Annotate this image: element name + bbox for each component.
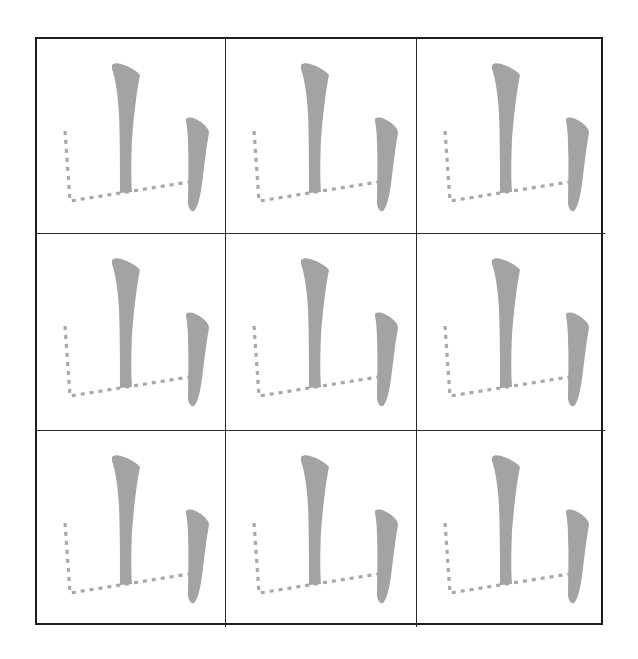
center-vertical-stroke (112, 455, 140, 585)
character-practice-grid: 山 山 山 山 (35, 37, 603, 625)
stroke-diagram (37, 39, 226, 234)
right-vertical-stroke (186, 118, 209, 212)
practice-cell-3-1: 山 (37, 431, 226, 627)
center-vertical-stroke (301, 258, 329, 388)
practice-cell-2-3: 山 (417, 234, 605, 431)
stroke-diagram (417, 39, 605, 234)
right-vertical-stroke (566, 510, 589, 604)
practice-cell-2-1: 山 (37, 234, 226, 431)
practice-cell-2-2: 山 (226, 234, 417, 431)
right-vertical-stroke (566, 313, 589, 407)
right-vertical-stroke (566, 118, 589, 212)
center-vertical-stroke (301, 455, 329, 585)
stroke-diagram (417, 234, 605, 430)
practice-cell-1-1: 山 (37, 39, 226, 234)
practice-cell-3-3: 山 (417, 431, 605, 627)
stroke-diagram (226, 39, 415, 234)
center-vertical-stroke (492, 63, 520, 193)
practice-cell-1-3: 山 (417, 39, 605, 234)
right-vertical-stroke (375, 313, 398, 407)
right-vertical-stroke (186, 510, 209, 604)
stroke-diagram (226, 234, 415, 430)
stroke-diagram (417, 431, 605, 627)
center-vertical-stroke (301, 63, 329, 193)
right-vertical-stroke (375, 510, 398, 604)
practice-cell-1-2: 山 (226, 39, 417, 234)
right-vertical-stroke (186, 313, 209, 407)
stroke-diagram (37, 234, 226, 430)
center-vertical-stroke (112, 258, 140, 388)
center-vertical-stroke (492, 455, 520, 585)
stroke-diagram (226, 431, 415, 627)
center-vertical-stroke (492, 258, 520, 388)
center-vertical-stroke (112, 63, 140, 193)
right-vertical-stroke (375, 118, 398, 212)
stroke-diagram (37, 431, 226, 627)
practice-cell-3-2: 山 (226, 431, 417, 627)
